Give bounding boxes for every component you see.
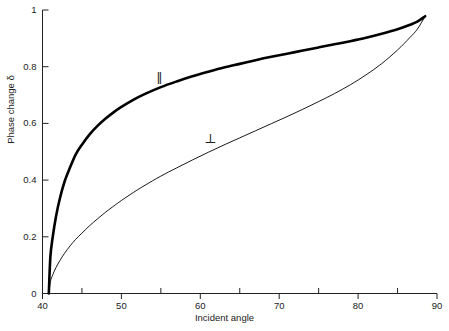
x-axis-title: Incident angle	[0, 312, 449, 323]
y-tick-label: 1	[0, 5, 37, 15]
y-tick-label: 0.4	[0, 175, 37, 185]
axis-lines	[43, 10, 438, 294]
x-tick-label: 50	[116, 301, 127, 311]
chart-canvas	[0, 0, 449, 331]
x-tick-label: 60	[195, 301, 206, 311]
series-line-parallel	[49, 16, 425, 293]
series-line-perpendicular	[49, 16, 425, 293]
x-tick-label: 90	[432, 301, 443, 311]
data-series-group	[49, 16, 425, 293]
x-tick-label: 80	[353, 301, 364, 311]
perpendicular-series-annotation: ⊥	[204, 132, 216, 145]
chart-figure: 405060708090 00.20.40.60.81 ∥⊥ Incident …	[0, 0, 449, 331]
x-tick-label: 40	[37, 301, 48, 311]
y-axis-title: Phase change δ	[5, 60, 16, 160]
y-tick-label: 0.2	[0, 232, 37, 242]
y-tick-label: 0	[0, 289, 37, 299]
x-tick-label: 70	[274, 301, 285, 311]
y-axis-ticks	[43, 10, 49, 294]
parallel-series-annotation: ∥	[157, 72, 163, 85]
